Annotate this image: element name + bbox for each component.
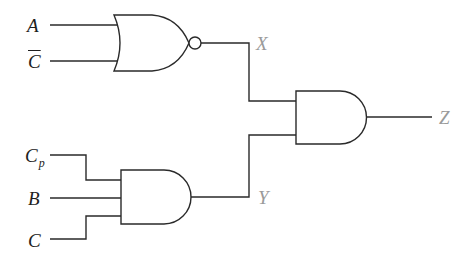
label-c-bar: C	[28, 52, 41, 71]
label-c: C	[28, 231, 41, 250]
and-gate-1	[121, 170, 191, 224]
label-b: B	[28, 189, 40, 208]
label-a: A	[27, 16, 39, 35]
wire-x	[201, 43, 296, 101]
circuit-drawing	[0, 0, 476, 263]
and-gate-2	[296, 91, 367, 144]
logic-circuit-diagram: A C Cp B C X Y Z	[0, 0, 476, 263]
label-z: Z	[439, 108, 450, 127]
label-y: Y	[258, 188, 269, 207]
nor-inversion-bubble	[189, 37, 201, 49]
wire-y	[191, 135, 296, 197]
wire-c	[50, 216, 121, 239]
label-cp: Cp	[25, 146, 45, 165]
nor-gate	[114, 15, 189, 71]
label-x: X	[256, 34, 268, 53]
wire-cp	[50, 155, 121, 180]
